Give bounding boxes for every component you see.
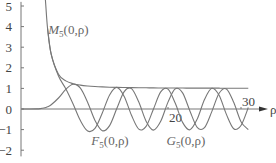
series-label-g5: G5(0,ρ) [167, 133, 206, 150]
y-tick-label: 3 [6, 40, 13, 55]
x-tick-label: 30 [242, 94, 255, 109]
y-tick-label: −1 [0, 122, 12, 137]
series-line-m5 [45, 0, 249, 88]
y-tick-label: 5 [6, 0, 13, 14]
y-tick-label: 0 [6, 102, 13, 117]
series-labels: F5(0,ρ)G5(0,ρ)M5(0,ρ) [47, 22, 205, 150]
y-tick-label: 1 [6, 81, 13, 96]
axes: ρ [21, 2, 276, 157]
series-line-g5 [48, 28, 249, 131]
series-label-m5: M5(0,ρ) [47, 22, 88, 39]
series-lines [22, 0, 248, 132]
x-axis-arrow-icon [259, 107, 268, 112]
x-axis-label: ρ [270, 102, 276, 117]
y-tick-label: 4 [6, 19, 13, 34]
y-tick-label: −2 [0, 143, 12, 158]
y-tick-labels: 543210−1−2 [0, 0, 24, 158]
chart: 543210−1−2 ρ 2030 F5(0,ρ)G5(0,ρ)M5(0,ρ) [0, 0, 276, 163]
y-tick-label: 2 [6, 60, 13, 75]
series-label-f5: F5(0,ρ) [90, 133, 128, 150]
